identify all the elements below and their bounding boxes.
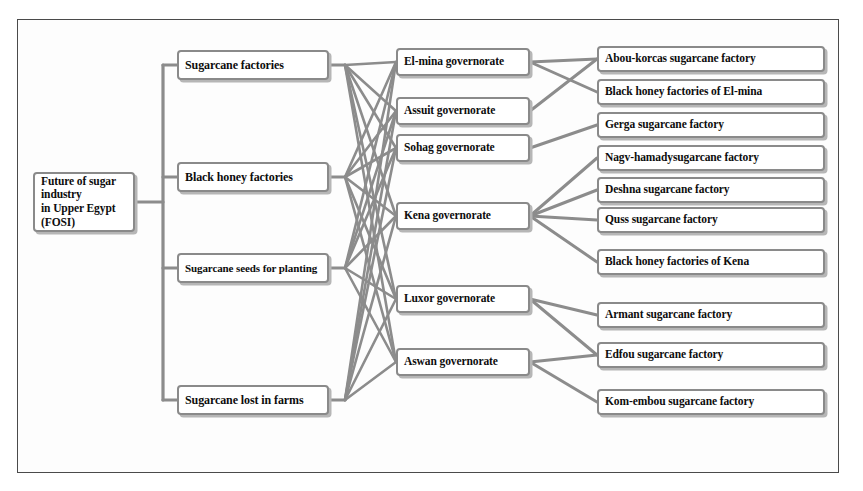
node-black-honey-kena[interactable]: Black honey factories of Kena bbox=[597, 249, 825, 275]
node-kom-embou-label: Kom-embou sugarcane factory bbox=[605, 395, 817, 409]
node-black-honey-kena-label: Black honey factories of Kena bbox=[605, 255, 817, 269]
node-gerga[interactable]: Gerga sugarcane factory bbox=[597, 112, 825, 138]
node-aswan-label: Aswan governorate bbox=[404, 355, 522, 369]
node-assuit[interactable]: Assuit governorate bbox=[396, 97, 530, 125]
node-root-label: Future of sugar industry in Upper Egypt … bbox=[41, 175, 127, 229]
node-nagy-hamady[interactable]: Nagv-hamadysugarcane factory bbox=[597, 145, 825, 171]
node-el-mina[interactable]: El-mina governorate bbox=[396, 48, 530, 76]
node-edfou-label: Edfou sugarcane factory bbox=[605, 348, 817, 362]
node-aswan[interactable]: Aswan governorate bbox=[396, 348, 530, 376]
node-armant-label: Armant sugarcane factory bbox=[605, 308, 817, 322]
node-quss[interactable]: Quss sugarcane factory bbox=[597, 207, 825, 233]
node-luxor-label: Luxor governorate bbox=[404, 292, 522, 306]
node-gerga-label: Gerga sugarcane factory bbox=[605, 118, 817, 132]
node-black-honey-el-mina-label: Black honey factories of El-mina bbox=[605, 85, 817, 99]
node-kena-label: Kena governorate bbox=[404, 209, 522, 223]
node-sugarcane-lost-label: Sugarcane lost in farms bbox=[185, 393, 321, 407]
node-root-label-line1: Future of sugar industry bbox=[41, 175, 127, 202]
node-root-label-line2: in Upper Egypt (FOSI) bbox=[41, 202, 127, 229]
node-kena[interactable]: Kena governorate bbox=[396, 202, 530, 230]
node-black-honey-factories[interactable]: Black honey factories bbox=[177, 162, 329, 192]
node-sugarcane-seeds-label: Sugarcane seeds for planting bbox=[185, 262, 321, 275]
node-deshna[interactable]: Deshna sugarcane factory bbox=[597, 177, 825, 203]
node-sohag-label: Sohag governorate bbox=[404, 141, 522, 155]
node-sohag[interactable]: Sohag governorate bbox=[396, 134, 530, 162]
node-sugarcane-seeds[interactable]: Sugarcane seeds for planting bbox=[177, 253, 329, 283]
node-black-honey-el-mina[interactable]: Black honey factories of El-mina bbox=[597, 79, 825, 105]
node-assuit-label: Assuit governorate bbox=[404, 104, 522, 118]
node-abou-korcas-label: Abou-korcas sugarcane factory bbox=[605, 52, 817, 66]
node-quss-label: Quss sugarcane factory bbox=[605, 213, 817, 227]
node-root[interactable]: Future of sugar industry in Upper Egypt … bbox=[33, 172, 135, 232]
node-abou-korcas[interactable]: Abou-korcas sugarcane factory bbox=[597, 46, 825, 72]
node-black-honey-factories-label: Black honey factories bbox=[185, 170, 321, 184]
node-deshna-label: Deshna sugarcane factory bbox=[605, 183, 817, 197]
node-kom-embou[interactable]: Kom-embou sugarcane factory bbox=[597, 389, 825, 415]
node-edfou[interactable]: Edfou sugarcane factory bbox=[597, 342, 825, 368]
node-sugarcane-factories-label: Sugarcane factories bbox=[185, 58, 321, 72]
node-armant[interactable]: Armant sugarcane factory bbox=[597, 302, 825, 328]
node-sugarcane-lost[interactable]: Sugarcane lost in farms bbox=[177, 385, 329, 415]
node-nagy-hamady-label: Nagv-hamadysugarcane factory bbox=[605, 151, 817, 165]
node-luxor[interactable]: Luxor governorate bbox=[396, 285, 530, 313]
node-el-mina-label: El-mina governorate bbox=[404, 55, 522, 69]
node-sugarcane-factories[interactable]: Sugarcane factories bbox=[177, 50, 329, 80]
diagram-canvas: Future of sugar industry in Upper Egypt … bbox=[0, 0, 863, 491]
